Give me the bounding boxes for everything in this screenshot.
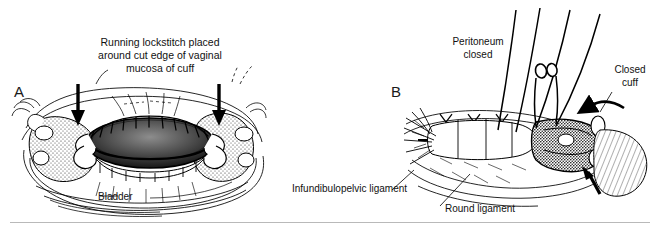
panel-b-letter: B	[391, 83, 402, 100]
running-lockstitch	[90, 116, 209, 141]
label-round-ligament: Round ligament	[445, 203, 515, 216]
panel-a-letter: A	[14, 83, 25, 100]
panel-a-artwork	[12, 66, 266, 217]
panel-a-arrow-left	[71, 84, 85, 126]
bottom-divider	[10, 222, 650, 223]
figure-root: A Running lockstitch placed around cut e…	[0, 0, 663, 237]
label-peritoneum-closed: Peritoneum closed	[437, 36, 519, 61]
label-closed-cuff: Closed cuff	[604, 64, 656, 89]
panel-b-curved-arrow	[590, 102, 624, 108]
panel-a-arrow-right	[212, 84, 226, 126]
label-bladder: Bladder	[98, 191, 132, 204]
cuff-inferior-edge	[92, 152, 208, 182]
peritoneum-closure-knot	[534, 63, 558, 79]
panel-b-up-arrow	[582, 166, 600, 194]
panel-b-artwork	[392, 8, 647, 206]
label-infundibulopelvic-ligament: Infundibulopelvic ligament	[292, 183, 407, 196]
closed-cuff-leader	[600, 92, 612, 112]
suture-strands	[498, 8, 600, 132]
closed-cuff-suture-line	[418, 114, 560, 154]
closed-cuff-mass	[532, 116, 606, 172]
panel-a-caption: Running lockstitch placed around cut edg…	[74, 36, 246, 75]
round-ligament-leader	[440, 174, 470, 206]
cuff-opening	[86, 118, 214, 168]
